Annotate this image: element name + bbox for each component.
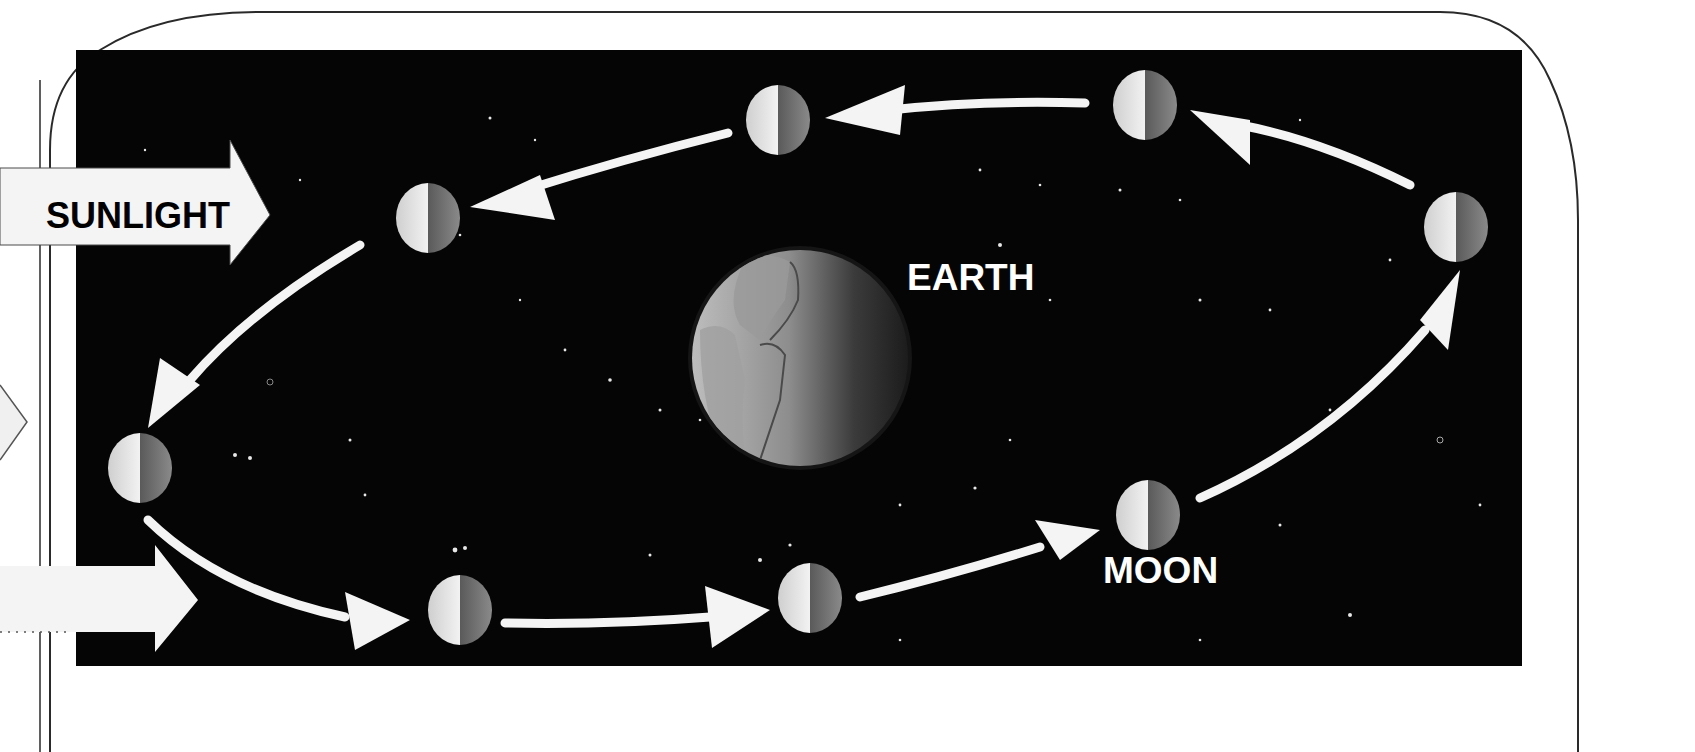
moon-top-center xyxy=(746,85,810,155)
moon-orbit-diagram: SUNLIGHT xyxy=(0,0,1695,752)
moon-far-right xyxy=(1424,192,1488,262)
moon-far-left xyxy=(108,433,172,503)
moon-top-right xyxy=(1113,70,1177,140)
moon-bottom-left xyxy=(428,575,492,645)
moon-bottom-center xyxy=(778,563,842,633)
moon-bottom-right xyxy=(1116,480,1180,550)
moon-label: MOON xyxy=(1103,550,1218,591)
sunlight-label: SUNLIGHT xyxy=(46,195,230,236)
moon-upper-left xyxy=(396,183,460,253)
earth xyxy=(688,246,912,470)
earth-label: EARTH xyxy=(907,257,1034,298)
chevron-shape xyxy=(0,385,27,460)
